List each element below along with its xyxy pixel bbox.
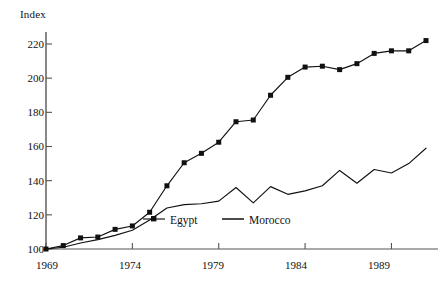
data-point-marker xyxy=(268,93,273,98)
data-point-marker xyxy=(354,61,359,66)
y-axis-ticks xyxy=(46,44,52,249)
legend-swatch-egypt xyxy=(143,216,165,221)
line-chart: Index 220 200 180 160 140 120 100 1969 1… xyxy=(0,0,448,284)
data-point-marker xyxy=(320,64,325,69)
data-point-marker xyxy=(424,38,429,43)
data-point-marker xyxy=(372,51,377,56)
data-point-marker xyxy=(303,65,308,70)
series-line-egypt xyxy=(46,41,426,249)
data-point-marker xyxy=(199,151,204,156)
x-axis-ticks xyxy=(46,243,391,249)
data-point-marker xyxy=(182,160,187,165)
data-point-marker xyxy=(251,118,256,123)
data-point-marker xyxy=(78,235,83,240)
series-line-morocco xyxy=(46,148,426,249)
data-point-marker xyxy=(234,119,239,124)
data-point-marker xyxy=(130,223,135,228)
data-point-marker xyxy=(95,235,100,240)
data-point-marker xyxy=(61,243,66,248)
data-point-marker xyxy=(406,48,411,53)
data-point-marker xyxy=(285,75,290,80)
data-point-marker xyxy=(337,67,342,72)
data-point-marker xyxy=(164,183,169,188)
data-point-marker xyxy=(113,227,118,232)
data-point-marker xyxy=(44,247,49,252)
data-point-marker xyxy=(147,210,152,215)
data-point-marker xyxy=(216,140,221,145)
data-point-marker xyxy=(389,48,394,53)
plot-area xyxy=(0,0,448,284)
